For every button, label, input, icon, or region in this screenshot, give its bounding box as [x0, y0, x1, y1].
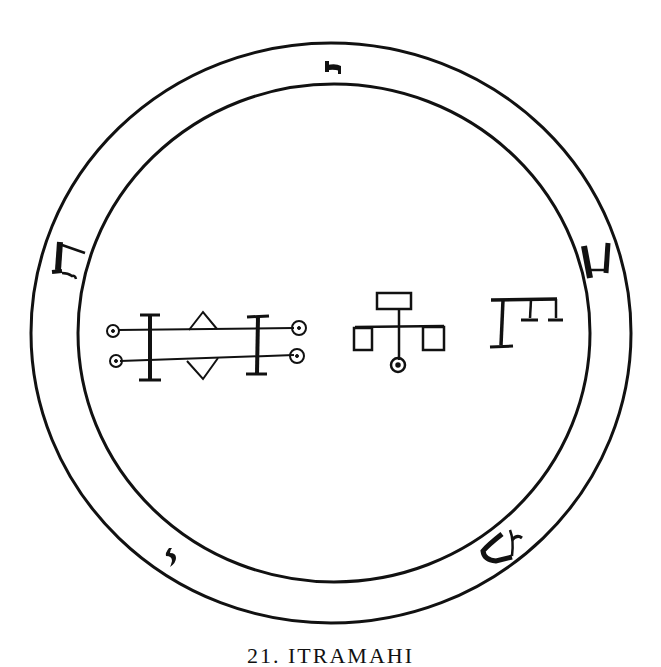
ring-glyph-bottom-left [166, 548, 176, 567]
outer-ring [31, 43, 631, 623]
ring-glyph-bottom-right [483, 530, 522, 561]
seal-caption: 21. ITRAMAHI [0, 645, 661, 667]
ring-glyph-top [325, 61, 341, 74]
ring-glyph-right [584, 243, 608, 278]
branch-sigil [354, 293, 444, 372]
double-bar-sigil [107, 312, 306, 380]
inner-ring [78, 84, 590, 582]
ring-glyph-left [52, 242, 85, 279]
comb-sigil [490, 299, 563, 347]
